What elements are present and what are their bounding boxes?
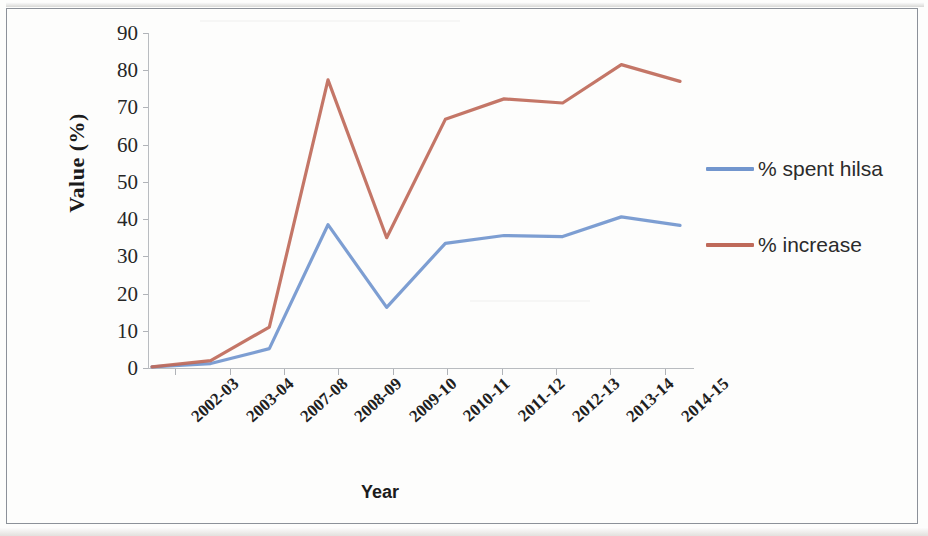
x-tick-label: 2010-11 <box>460 374 515 426</box>
x-tick-label: 2012-13 <box>569 374 624 427</box>
legend-swatch-icon <box>706 167 754 171</box>
y-tick-label: 30 <box>98 244 138 269</box>
x-tick-label: 2011-12 <box>514 374 569 426</box>
y-tick-label: 0 <box>98 356 138 381</box>
y-tick-label: 90 <box>98 21 138 46</box>
x-tick-label: 2007-08 <box>297 374 352 427</box>
y-tick-mark <box>143 33 148 34</box>
y-tick-mark <box>143 107 148 108</box>
y-tick-label: 60 <box>98 133 138 158</box>
y-tick-mark <box>143 256 148 257</box>
x-tick-label: 2008-09 <box>351 374 406 427</box>
series-line-increase <box>152 65 680 367</box>
legend-entry[interactable]: % increase <box>706 228 916 262</box>
y-tick-label: 20 <box>98 282 138 307</box>
y-tick-label: 40 <box>98 207 138 232</box>
series-line-spent-hilsa <box>152 217 680 367</box>
y-tick-mark <box>143 70 148 71</box>
y-tick-mark <box>143 368 148 369</box>
x-tick-label: 2013-14 <box>623 374 678 427</box>
y-tick-label: 10 <box>98 319 138 344</box>
x-tick-label: 2009-10 <box>405 374 460 427</box>
y-tick-mark <box>143 294 148 295</box>
y-tick-label: 50 <box>98 170 138 195</box>
x-axis-tick-labels: 2002-032003-042007-082008-092009-102010-… <box>148 374 708 474</box>
line-chart-figure: Value (%) 9080706050403020100 2002-03200… <box>0 0 928 536</box>
chart-legend: % spent hilsa% increase <box>706 152 916 304</box>
data-series-svg <box>148 33 692 368</box>
y-tick-label: 80 <box>98 58 138 83</box>
legend-label: % increase <box>758 233 862 257</box>
y-tick-mark <box>143 331 148 332</box>
legend-swatch-icon <box>706 243 754 247</box>
x-axis-title: Year <box>250 482 510 503</box>
y-tick-mark <box>143 145 148 146</box>
x-tick-label: 2002-03 <box>188 374 243 427</box>
plot-area <box>148 33 692 368</box>
y-tick-label: 70 <box>98 95 138 120</box>
x-tick-label: 2014-15 <box>677 374 732 427</box>
legend-label: % spent hilsa <box>758 157 883 181</box>
frame-shade-top <box>6 2 924 7</box>
y-tick-mark <box>143 219 148 220</box>
x-tick-label: 2003-04 <box>242 374 297 427</box>
frame-shade-bottom <box>0 527 928 536</box>
scan-artifact <box>200 20 460 22</box>
y-tick-mark <box>143 182 148 183</box>
legend-entry[interactable]: % spent hilsa <box>706 152 916 186</box>
y-axis-tick-labels: 9080706050403020100 <box>86 33 138 368</box>
